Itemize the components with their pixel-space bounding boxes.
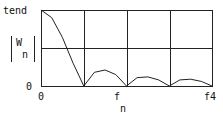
y-tick-bottom: 0	[26, 82, 32, 92]
y-axis-label: W n	[11, 36, 35, 62]
x-axis-label-main: f	[114, 92, 120, 102]
x-tick-right: f4	[204, 92, 216, 102]
y-tick-top: tend	[3, 6, 27, 16]
x-axis-label-sub: n	[120, 104, 126, 114]
x-tick-left: 0	[38, 92, 44, 102]
y-axis-label-sub: n	[22, 50, 28, 60]
y-axis-label-main: W	[16, 38, 22, 48]
